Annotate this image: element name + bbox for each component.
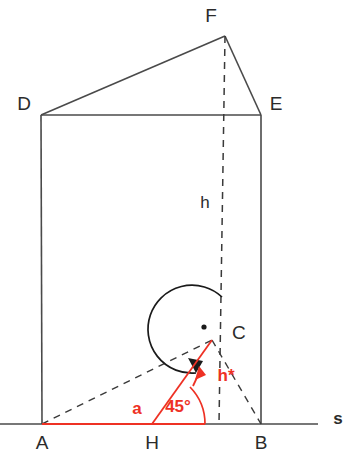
- edge-d-f: [41, 36, 225, 115]
- angle-45-arc: [190, 387, 205, 424]
- prism-diagram-canvas: F D E C A H B h s a 45° h*: [0, 0, 356, 459]
- right-angle-arc: [148, 285, 222, 373]
- vertex-label-c: C: [232, 322, 246, 343]
- side-label-a: a: [132, 399, 142, 418]
- edge-a-d: [41, 115, 42, 424]
- vertex-label-e: E: [270, 93, 283, 114]
- slant-height-label-h-star: h*: [218, 366, 235, 385]
- vertex-label-a: A: [36, 432, 49, 453]
- vertex-label-h: H: [145, 432, 159, 453]
- vertex-label-b: B: [255, 432, 268, 453]
- vertex-label-f: F: [205, 5, 217, 26]
- height-label-h: h: [200, 193, 209, 212]
- vertex-label-d: D: [17, 93, 31, 114]
- angle-label-45: 45°: [165, 397, 191, 416]
- base-line-label-s: s: [333, 409, 342, 428]
- edge-f-e: [225, 36, 261, 115]
- right-angle-dot-marker: [201, 324, 206, 329]
- geometry-figure: F D E C A H B h s a 45° h*: [0, 0, 356, 459]
